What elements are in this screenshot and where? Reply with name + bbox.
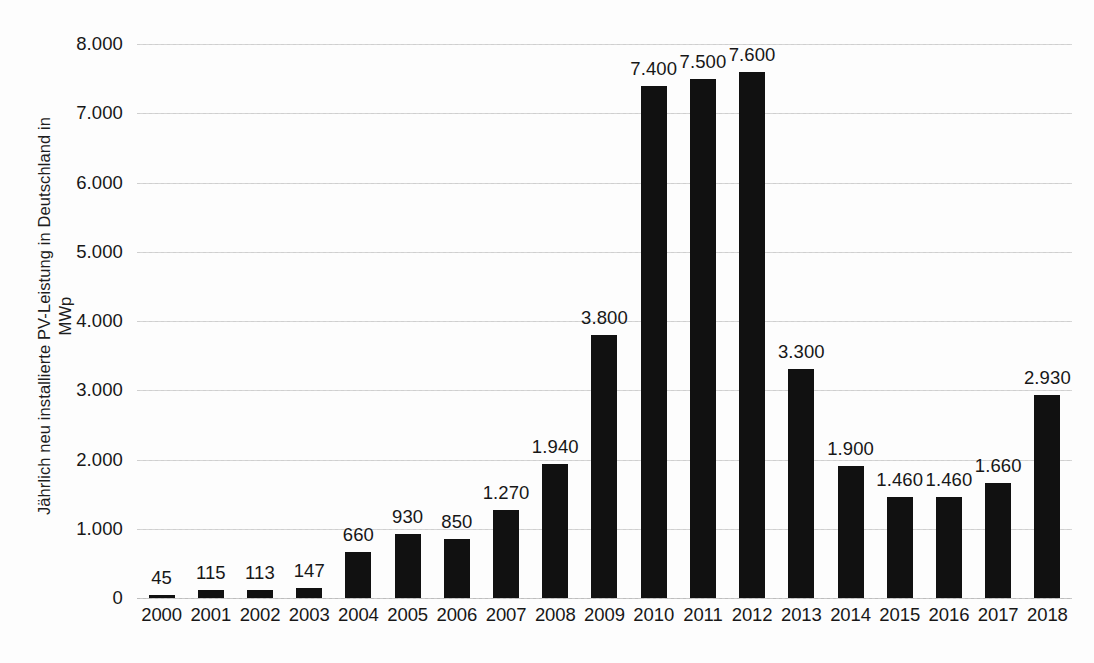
bar[interactable] bbox=[296, 588, 322, 598]
bar-slot: 7.600 bbox=[728, 44, 777, 598]
x-tick-label: 2014 bbox=[830, 604, 871, 626]
y-tick-label: 4.000 bbox=[76, 310, 123, 332]
bar-slot: 7.400 bbox=[629, 44, 678, 598]
chart-container: Jährlich neu installierte PV-Leistung in… bbox=[0, 0, 1094, 663]
x-tick-label: 2004 bbox=[338, 604, 379, 626]
bar-slot: 45 bbox=[137, 44, 186, 598]
y-tick-label: 7.000 bbox=[76, 102, 123, 124]
plot-area: 01.0002.0003.0004.0005.0006.0007.0008.00… bbox=[137, 44, 1072, 598]
y-tick-label: 2.000 bbox=[76, 448, 123, 470]
x-tick-label: 2005 bbox=[387, 604, 428, 626]
bar-value-label: 7.600 bbox=[729, 44, 776, 66]
y-tick-label: 6.000 bbox=[76, 171, 123, 193]
bar-value-label: 1.900 bbox=[827, 438, 874, 460]
x-tick-label: 2015 bbox=[879, 604, 920, 626]
bar-value-label: 45 bbox=[151, 567, 172, 589]
bar-slot: 3.800 bbox=[580, 44, 629, 598]
x-tick-label: 2006 bbox=[436, 604, 477, 626]
x-tick-label: 2002 bbox=[240, 604, 281, 626]
x-tick-label: 2008 bbox=[535, 604, 576, 626]
bar-value-label: 7.500 bbox=[680, 51, 727, 73]
bar-value-label: 2.930 bbox=[1024, 367, 1071, 389]
y-tick-label: 0 bbox=[113, 587, 123, 609]
y-tick-label: 8.000 bbox=[76, 33, 123, 55]
bar-value-label: 3.800 bbox=[581, 307, 628, 329]
bar-slot: 850 bbox=[432, 44, 481, 598]
bar-slot: 660 bbox=[334, 44, 383, 598]
x-tick-label: 2016 bbox=[929, 604, 970, 626]
bar[interactable] bbox=[838, 466, 864, 598]
bar[interactable] bbox=[1034, 395, 1060, 598]
y-tick-label: 1.000 bbox=[76, 517, 123, 539]
bar-slot: 115 bbox=[186, 44, 235, 598]
bar-slot: 1.460 bbox=[875, 44, 924, 598]
bar-value-label: 1.940 bbox=[532, 436, 579, 458]
x-tick-label: 2017 bbox=[978, 604, 1019, 626]
bar-slot: 3.300 bbox=[777, 44, 826, 598]
x-tick-label: 2007 bbox=[486, 604, 527, 626]
y-axis-title: Jährlich neu installierte PV-Leistung in… bbox=[34, 56, 76, 576]
bar-value-label: 1.660 bbox=[975, 455, 1022, 477]
bar-slot: 2.930 bbox=[1023, 44, 1072, 598]
bar-value-label: 7.400 bbox=[630, 58, 677, 80]
y-tick-label: 5.000 bbox=[76, 240, 123, 262]
bar-value-label: 1.270 bbox=[483, 482, 530, 504]
x-tick-label: 2013 bbox=[781, 604, 822, 626]
bar-slot: 930 bbox=[383, 44, 432, 598]
gridline-0: 0 bbox=[137, 598, 1072, 599]
y-tick-label: 3.000 bbox=[76, 379, 123, 401]
bar-slot: 1.460 bbox=[924, 44, 973, 598]
bar[interactable] bbox=[739, 72, 765, 598]
x-tick-label: 2018 bbox=[1027, 604, 1068, 626]
bar[interactable] bbox=[887, 497, 913, 598]
bar[interactable] bbox=[936, 497, 962, 598]
bar-slot: 1.900 bbox=[826, 44, 875, 598]
bar[interactable] bbox=[149, 595, 175, 598]
bar[interactable] bbox=[690, 79, 716, 598]
bar[interactable] bbox=[444, 539, 470, 598]
bar-slot: 7.500 bbox=[678, 44, 727, 598]
x-tick-label: 2009 bbox=[584, 604, 625, 626]
bar[interactable] bbox=[985, 483, 1011, 598]
x-tick-label: 2012 bbox=[732, 604, 773, 626]
bar[interactable] bbox=[591, 335, 617, 598]
bar[interactable] bbox=[345, 552, 371, 598]
bar-value-label: 660 bbox=[343, 524, 374, 546]
bar-value-label: 115 bbox=[196, 562, 226, 584]
bar[interactable] bbox=[395, 534, 421, 598]
bar[interactable] bbox=[247, 590, 273, 598]
bar[interactable] bbox=[198, 590, 224, 598]
bars-group: 451151131476609308501.2701.9403.8007.400… bbox=[137, 44, 1072, 598]
bar[interactable] bbox=[788, 369, 814, 598]
bar-value-label: 147 bbox=[294, 560, 325, 582]
bar-value-label: 1.460 bbox=[876, 469, 923, 491]
x-tick-label: 2001 bbox=[190, 604, 231, 626]
bar-value-label: 930 bbox=[392, 506, 423, 528]
x-tick-label: 2003 bbox=[289, 604, 330, 626]
bar[interactable] bbox=[493, 510, 519, 598]
bar[interactable] bbox=[542, 464, 568, 598]
bar-slot: 1.270 bbox=[481, 44, 530, 598]
bar-slot: 113 bbox=[235, 44, 284, 598]
bar[interactable] bbox=[641, 86, 667, 598]
bar-value-label: 113 bbox=[245, 562, 275, 584]
x-axis-labels-group: 2000200120022003200420052006200720082009… bbox=[137, 604, 1072, 634]
x-tick-label: 2011 bbox=[683, 604, 722, 626]
bar-value-label: 1.460 bbox=[926, 469, 973, 491]
bar-slot: 1.940 bbox=[531, 44, 580, 598]
bar-slot: 1.660 bbox=[974, 44, 1023, 598]
bar-value-label: 3.300 bbox=[778, 341, 825, 363]
x-tick-label: 2000 bbox=[141, 604, 182, 626]
x-tick-label: 2010 bbox=[633, 604, 674, 626]
bar-slot: 147 bbox=[285, 44, 334, 598]
bar-value-label: 850 bbox=[441, 511, 472, 533]
